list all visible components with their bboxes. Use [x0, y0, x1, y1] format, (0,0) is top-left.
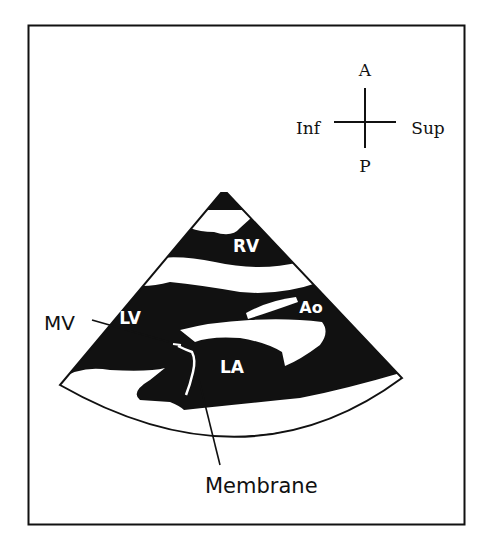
echo-diagram: A P Inf Sup RV: [0, 0, 484, 533]
mv-label: MV: [44, 311, 75, 335]
la-label: LA: [220, 357, 245, 377]
membrane-label: Membrane: [205, 474, 318, 498]
inferior-label: Inf: [296, 118, 322, 138]
orientation-compass: A P Inf Sup: [296, 60, 445, 176]
mitral-valve-leaflet: [173, 344, 181, 345]
posterior-label: P: [359, 156, 370, 176]
lv-label: LV: [119, 308, 141, 328]
superior-label: Sup: [411, 118, 445, 138]
ao-label: Ao: [299, 298, 322, 317]
anterior-label: A: [358, 60, 372, 80]
rv-label: RV: [233, 236, 260, 256]
